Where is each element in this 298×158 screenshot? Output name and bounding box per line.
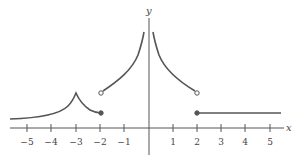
tick-label: 4 — [242, 137, 248, 147]
tick-label: 2 — [194, 137, 200, 147]
x-tick-labels: −5 −4 −3 −2 −1 1 2 3 4 5 — [20, 137, 273, 147]
open-circle-right — [195, 91, 199, 95]
tick-label: 3 — [218, 137, 224, 147]
closed-dot-left — [99, 111, 103, 115]
tick-label: 1 — [170, 137, 176, 147]
tick-label: 5 — [267, 137, 273, 147]
tick-label: −4 — [44, 137, 58, 147]
curve-right-branch — [153, 32, 195, 91]
curve-left-branch — [103, 32, 144, 91]
y-axis-label: y — [145, 5, 152, 16]
x-axis-label: x — [286, 122, 292, 133]
tick-label: −5 — [20, 137, 34, 147]
open-circle-left — [99, 91, 103, 95]
tick-label: −3 — [69, 137, 83, 147]
curve-left-tail-cusp — [10, 93, 101, 119]
tick-label: −1 — [117, 137, 130, 147]
function-graph: x y −5 −4 −3 −2 −1 1 2 3 4 5 — [0, 0, 298, 158]
tick-label: −2 — [93, 137, 106, 147]
closed-dot-right — [195, 111, 199, 115]
